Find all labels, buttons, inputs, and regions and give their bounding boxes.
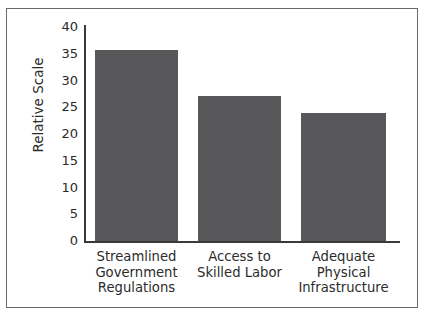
y-tick-label: 40: [50, 20, 78, 33]
y-tick-label: 5: [50, 207, 78, 220]
bar-adequate-physical-infrastructure: [301, 113, 386, 241]
x-axis-line: [84, 241, 400, 243]
y-tick-label: 10: [50, 181, 78, 194]
chart-page: Relative Scale 40 35 30 25 20 15 10 5 0: [0, 0, 426, 317]
y-tick-label: 20: [50, 127, 78, 140]
y-tick-label: 35: [50, 47, 78, 60]
y-tick-label: 15: [50, 154, 78, 167]
y-axis-line: [84, 25, 86, 243]
bar-access-to-skilled-labor: [198, 96, 281, 241]
y-tick-label: 30: [50, 74, 78, 87]
bar-chart: Relative Scale 40 35 30 25 20 15 10 5 0: [0, 0, 426, 317]
y-axis-title: Relative Scale: [30, 45, 46, 165]
bar-streamlined-government-regulations: [95, 50, 178, 242]
x-tick-label-0: Streamlined Government Regulations: [86, 249, 187, 296]
y-tick-label: 25: [50, 100, 78, 113]
x-tick-label-1: Access to Skilled Labor: [189, 249, 290, 280]
x-tick-label-2: Adequate Physical Infrastructure: [292, 249, 395, 296]
y-tick-label: 0: [50, 234, 78, 247]
